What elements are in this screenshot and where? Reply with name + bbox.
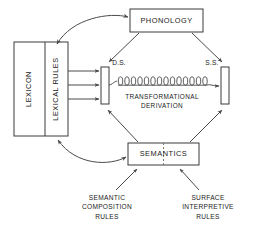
lexical-rules-label: LEXICAL RULES [51,57,60,120]
semantic-composition-rules-line3: RULES [95,213,119,220]
deep-structure-label: D.S. [112,59,126,66]
semantic-composition-rules-arrow [116,169,137,190]
transformational-derivation-line1: TRANSFORMATIONAL [125,93,199,100]
semantics-label: SEMANTICS [140,149,188,158]
semantic-composition-rules-line1: SEMANTIC [89,194,125,201]
diagram-canvas: LEXICON LEXICAL RULES PHONOLOGY SEMANTIC… [0,0,263,231]
surface-interpretive-rules-line1: SURFACE [191,194,225,201]
semantic-composition-rules-line2: COMPOSITION [82,203,132,210]
surface-interpretive-rules-line2: INTERPRETIVE [182,203,234,210]
lexicon-label: LEXICON [24,71,33,107]
surface-interpretive-rules-line3: RULES [196,213,220,220]
phonology-label: PHONOLOGY [140,16,192,25]
deep-structure-bar [101,67,109,104]
coil-left-tail [109,81,117,85]
semantics-to-ds-line [108,110,138,142]
phonology-lexical-rules-curve [57,15,128,44]
surface-interpretive-rules-arrow [180,169,199,190]
surface-structure-bar [221,67,229,104]
transformational-derivation-line2: DERIVATION [141,102,183,109]
lexical-rules-to-ds-arrows [68,71,99,99]
phonology-to-ss-line [192,33,222,62]
coil-right-tail [207,85,219,86]
semantics-to-ss-line [190,110,222,142]
phonology-to-ds-line [109,33,139,62]
coil-loops [118,77,207,85]
lexicon-semantics-curve [58,140,126,162]
transformational-derivation-coil [109,77,219,86]
grammar-model-diagram: LEXICON LEXICAL RULES PHONOLOGY SEMANTIC… [0,0,263,231]
surface-structure-label: S.S. [205,59,218,66]
